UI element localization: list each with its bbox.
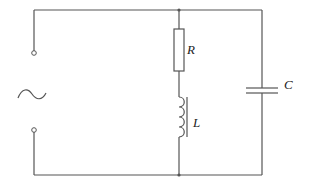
capacitor-label: C bbox=[284, 77, 293, 92]
inductor-label: L bbox=[192, 115, 200, 130]
terminal-bottom-icon bbox=[32, 128, 37, 133]
terminal-top-icon bbox=[32, 51, 37, 56]
resistor-icon bbox=[174, 29, 184, 71]
junction-top-icon bbox=[177, 8, 180, 11]
ac-source-icon bbox=[18, 90, 46, 99]
circuit-diagram: R L C bbox=[0, 0, 310, 189]
resistor-label: R bbox=[186, 42, 195, 57]
inductor-icon bbox=[179, 97, 184, 137]
wires bbox=[34, 10, 262, 175]
junction-bottom-icon bbox=[177, 173, 180, 176]
